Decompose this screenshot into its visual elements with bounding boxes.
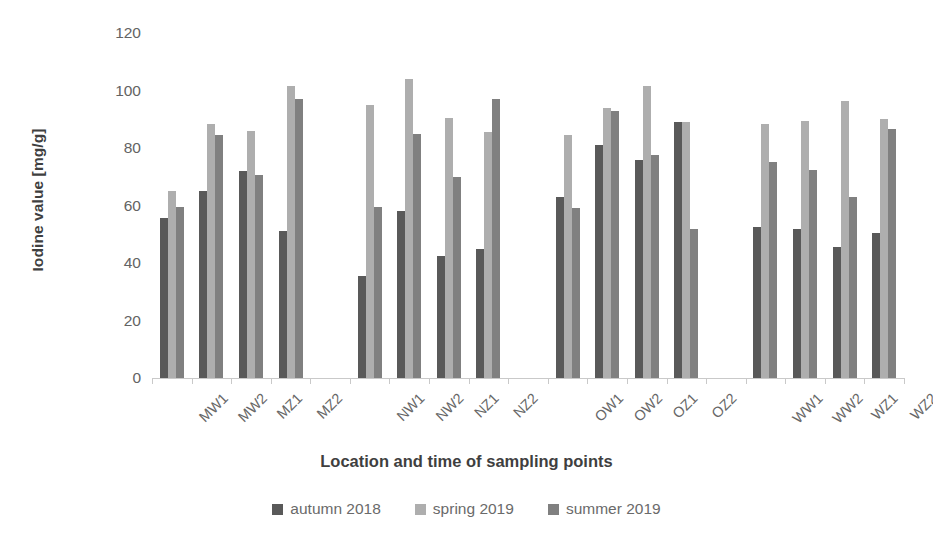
bar-ww1-spring-2019 [761, 124, 769, 378]
bar-oz2-spring-2019 [682, 122, 690, 378]
bar-ow2-summer-2019 [611, 111, 619, 378]
x-tick-mark [389, 378, 390, 384]
bar-wz1-autumn-2018 [833, 247, 841, 378]
chart-figure: Iodine value [mg/g] 020406080100120 MW1M… [0, 0, 933, 545]
x-tick-mark [350, 378, 351, 384]
x-tick-mark [904, 378, 905, 384]
x-tick-mark [746, 378, 747, 384]
x-tick-mark [548, 378, 549, 384]
legend-label: summer 2019 [566, 500, 661, 518]
x-tick-label: NW1 [393, 390, 427, 424]
y-tick-label: 100 [115, 82, 141, 100]
bar-nz2-summer-2019 [492, 99, 500, 378]
bar-group-oz2 [674, 33, 698, 378]
x-tick-mark [310, 378, 311, 384]
x-axis-line [152, 378, 904, 379]
x-tick-label: OZ1 [669, 390, 700, 421]
bar-mz1-spring-2019 [247, 131, 255, 378]
bar-group-wz2 [872, 33, 896, 378]
x-tick-label: WZ2 [907, 390, 933, 423]
bar-wz2-summer-2019 [888, 129, 896, 378]
bar-ww2-spring-2019 [801, 121, 809, 378]
bar-ww2-summer-2019 [809, 170, 817, 378]
bar-wz2-spring-2019 [880, 119, 888, 378]
x-tick-label: WW2 [829, 390, 865, 426]
bar-group-ow2 [595, 33, 619, 378]
bar-group-mw2 [199, 33, 223, 378]
bar-nz1-spring-2019 [445, 118, 453, 378]
legend-label: spring 2019 [433, 500, 514, 518]
bar-ow2-spring-2019 [603, 108, 611, 378]
x-tick-label: WZ1 [868, 390, 901, 423]
x-tick-mark [192, 378, 193, 384]
x-tick-label: OW2 [631, 390, 666, 425]
legend-swatch-icon [272, 504, 283, 515]
bar-mz2-spring-2019 [287, 86, 295, 378]
x-tick-mark [469, 378, 470, 384]
bar-ww2-autumn-2018 [793, 229, 801, 379]
x-tick-label: MW2 [235, 390, 270, 425]
plot-area: 020406080100120 MW1MW2MZ1MZ2NW1NW2NZ1NZ2… [152, 33, 904, 378]
legend-swatch-icon [415, 504, 426, 515]
legend-item-spring-2019[interactable]: spring 2019 [415, 500, 514, 518]
bar-ow1-summer-2019 [572, 208, 580, 378]
bar-group-mz2 [279, 33, 303, 378]
x-tick-label: MZ1 [273, 390, 305, 422]
x-tick-mark [627, 378, 628, 384]
bar-mz2-autumn-2018 [279, 231, 287, 378]
bar-mz1-summer-2019 [255, 175, 263, 378]
x-tick-label: MZ2 [313, 390, 345, 422]
bar-group-nw2 [397, 33, 421, 378]
bar-group-ww1 [753, 33, 777, 378]
y-axis-title: Iodine value [mg/g] [18, 0, 58, 400]
x-tick-mark [429, 378, 430, 384]
bar-nz2-autumn-2018 [476, 249, 484, 378]
bar-nw2-autumn-2018 [397, 211, 405, 378]
x-tick-mark [152, 378, 153, 384]
bar-mw1-autumn-2018 [160, 218, 168, 378]
bar-mw1-spring-2019 [168, 191, 176, 378]
x-tick-mark [825, 378, 826, 384]
bar-group-mz1 [239, 33, 263, 378]
bar-nw1-autumn-2018 [358, 276, 366, 378]
bar-mz1-autumn-2018 [239, 171, 247, 378]
bar-mz2-summer-2019 [295, 99, 303, 378]
x-tick-mark [271, 378, 272, 384]
bar-ow2-autumn-2018 [595, 145, 603, 378]
bar-group-nz2 [476, 33, 500, 378]
bar-nz1-autumn-2018 [437, 256, 445, 378]
bar-nw1-spring-2019 [366, 105, 374, 378]
bar-oz1-summer-2019 [651, 155, 659, 378]
y-tick-label: 120 [115, 24, 141, 42]
legend-swatch-icon [548, 504, 559, 515]
bar-group-nz1 [437, 33, 461, 378]
bar-mw1-summer-2019 [176, 207, 184, 378]
bar-ow1-spring-2019 [564, 135, 572, 378]
bar-mw2-autumn-2018 [199, 191, 207, 378]
bar-oz1-autumn-2018 [635, 160, 643, 379]
bar-group-ww2 [793, 33, 817, 378]
bar-group-wz1 [833, 33, 857, 378]
x-tick-mark [508, 378, 509, 384]
y-axis-title-text: Iodine value [mg/g] [29, 128, 47, 271]
bar-oz1-spring-2019 [643, 86, 651, 378]
x-axis-title: Location and time of sampling points [0, 452, 933, 471]
bar-wz2-autumn-2018 [872, 233, 880, 378]
bar-wz1-spring-2019 [841, 101, 849, 378]
bar-oz2-autumn-2018 [674, 122, 682, 378]
x-tick-mark [706, 378, 707, 384]
bar-nw2-spring-2019 [405, 79, 413, 378]
x-tick-label: OW1 [591, 390, 626, 425]
legend-item-autumn-2018[interactable]: autumn 2018 [272, 500, 381, 518]
bar-nw2-summer-2019 [413, 134, 421, 378]
legend-item-summer-2019[interactable]: summer 2019 [548, 500, 661, 518]
y-tick-label: 0 [132, 369, 141, 387]
legend-label: autumn 2018 [290, 500, 381, 518]
bar-nw1-summer-2019 [374, 207, 382, 378]
bar-ow1-autumn-2018 [556, 197, 564, 378]
y-tick-label: 80 [124, 139, 141, 157]
bar-group-nw1 [358, 33, 382, 378]
y-tick-label: 40 [124, 254, 141, 272]
bar-mw2-spring-2019 [207, 124, 215, 378]
bar-group-oz1 [635, 33, 659, 378]
